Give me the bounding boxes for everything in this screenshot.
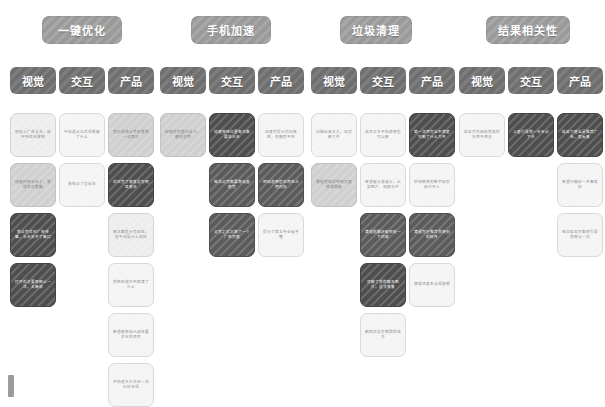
sticky-note-text: 清理前最好能预览一下内容 bbox=[364, 230, 402, 240]
sticky-note-text: 加速按钮位置每次都要找半天 bbox=[213, 130, 251, 140]
sticky-note-text: 第一次用完全不清楚它删了什么文件 bbox=[413, 130, 451, 140]
column-pill-5[interactable]: 交互 bbox=[209, 67, 255, 94]
sticky-note-text: 结果页内容和我搜的东西不相关 bbox=[463, 130, 501, 140]
column-pill-label: 产品 bbox=[421, 73, 444, 89]
sticky-note[interactable]: 希望能分类展示，比如图片、视频分开 bbox=[360, 163, 406, 207]
column-pill-8[interactable]: 交互 bbox=[360, 67, 406, 94]
column-pill-12[interactable]: 产品 bbox=[557, 67, 603, 94]
group-header-1[interactable]: 一键优化 bbox=[42, 16, 122, 44]
sticky-note-text: 希望只做好一件事就好 bbox=[561, 180, 599, 190]
sticky-note-text: 加速完提示内存释放，但感受不到 bbox=[262, 130, 300, 140]
sticky-note[interactable]: 加速按钮位置每次都要找半天 bbox=[209, 113, 255, 157]
sticky-note[interactable]: 加速完提示内存释放，但感受不到 bbox=[258, 113, 304, 157]
column-pill-label: 产品 bbox=[270, 73, 293, 89]
sticky-note-text: 提示文案太专业看不懂 bbox=[262, 230, 300, 240]
sticky-note[interactable]: 误删了我的聊天图片，没法恢复 bbox=[360, 263, 406, 307]
sticky-note[interactable]: 加速后页面还是卡，感觉没用 bbox=[160, 113, 206, 157]
vertical-scroll-indicator[interactable] bbox=[8, 375, 14, 397]
sticky-note-text: 不知道点击后系统做了什么 bbox=[63, 130, 101, 140]
column-pill-6[interactable]: 产品 bbox=[258, 67, 304, 94]
sticky-note[interactable]: 动画时间太长了，等得有点焦躁 bbox=[10, 163, 56, 207]
sticky-note[interactable]: 优化完了速度没有明显变化 bbox=[108, 163, 154, 207]
sticky-note-text: 清理进度条走得很慢 bbox=[414, 282, 450, 287]
sticky-note[interactable]: 不知道点击后系统做了什么 bbox=[59, 113, 105, 157]
sticky-note[interactable]: 每次都提示有风险，但不说是什么风险 bbox=[108, 213, 154, 257]
sticky-note-text: 清理完成后空间又很快满回来 bbox=[315, 180, 353, 190]
group-header-label: 垃圾清理 bbox=[352, 22, 400, 38]
sticky-note-text: 优化完了速度没有明显变化 bbox=[112, 180, 150, 190]
sticky-note-text: 不知道多久优化一次比较合适 bbox=[112, 380, 150, 390]
sticky-note[interactable]: 点完之后又跳了一个广告页面 bbox=[209, 213, 255, 257]
sticky-note[interactable]: 希望能够自己选择要优化的项目 bbox=[108, 313, 154, 357]
column-pill-label: 产品 bbox=[120, 73, 143, 89]
sticky-note[interactable]: 想知道哪些应用在占用内存 bbox=[258, 163, 304, 207]
sticky-note[interactable]: 希望只做好一件事就好 bbox=[557, 163, 603, 207]
sticky-note-text: 每次结果页都想引导我再点一次 bbox=[561, 230, 599, 240]
column-pill-9[interactable]: 产品 bbox=[409, 67, 455, 94]
column-pill-label: 交互 bbox=[221, 73, 244, 89]
sticky-note-text: 空间释放的数字和实际对不上 bbox=[413, 180, 451, 190]
column-pill-11[interactable]: 交互 bbox=[508, 67, 554, 94]
sticky-note[interactable]: 空间释放的数字和实际对不上 bbox=[409, 163, 455, 207]
sticky-note-text: 希望能够自己选择要优化的项目 bbox=[112, 330, 150, 340]
column-pill-1[interactable]: 视觉 bbox=[10, 67, 56, 94]
sticky-note[interactable]: 清理完成后空间又很快满回来 bbox=[311, 163, 357, 207]
sticky-note-text: 上面引导我一步步点下去 bbox=[512, 130, 550, 140]
sticky-note-text: 我点完优化广告弹窗，半天关不了窗口 bbox=[14, 230, 52, 240]
sticky-note[interactable]: 清理前最好能预览一下内容 bbox=[360, 213, 406, 257]
column-pill-label: 交互 bbox=[520, 73, 543, 89]
sticky-note-text: 按钮点了没反应 bbox=[68, 182, 96, 187]
sticky-note[interactable]: 结果下面全是推荐广告，很反感 bbox=[557, 113, 603, 157]
sticky-note[interactable]: 扫描出来太大，怕误删文件 bbox=[311, 113, 357, 157]
sticky-note[interactable]: 提示文案太专业看不懂 bbox=[258, 213, 304, 257]
sticky-note[interactable]: 清理进度条走得很慢 bbox=[409, 263, 455, 307]
sticky-note[interactable]: 不知道多久优化一次比较合适 bbox=[108, 363, 154, 407]
column-pill-label: 视觉 bbox=[172, 73, 195, 89]
column-pill-7[interactable]: 视觉 bbox=[311, 67, 357, 94]
sticky-note-text: 结果下面全是推荐广告，很反感 bbox=[561, 130, 599, 140]
sticky-note-text: 误删了我的聊天图片，没法恢复 bbox=[364, 280, 402, 290]
column-pill-label: 视觉 bbox=[323, 73, 346, 89]
sticky-note-text: 我只是想让手机变快一点而已 bbox=[112, 130, 150, 140]
sticky-note-text: 打开后还要再确认一次，太麻烦 bbox=[14, 280, 52, 290]
sticky-note-text: 清理完还推荐我装别的软件 bbox=[413, 230, 451, 240]
sticky-note-text: 每次点完都要等动画跑完 bbox=[213, 180, 251, 190]
sticky-note-text: 希望能分类展示，比如图片、视频分开 bbox=[364, 180, 402, 190]
sticky-note-text: 想知道哪些应用在占用内存 bbox=[262, 180, 300, 190]
group-header-2[interactable]: 手机加速 bbox=[191, 16, 271, 44]
sticky-note[interactable]: 选项太多不知道哪些可以删 bbox=[360, 113, 406, 157]
sticky-note[interactable]: 按钮点了没反应 bbox=[59, 163, 105, 207]
sticky-note[interactable]: 结果页内容和我搜的东西不相关 bbox=[459, 113, 505, 157]
sticky-note[interactable]: 我点完优化广告弹窗，半天关不了窗口 bbox=[10, 213, 56, 257]
sticky-note[interactable]: 我想知道它到底清了什么 bbox=[108, 263, 154, 307]
group-header-4[interactable]: 结果相关性 bbox=[486, 16, 570, 44]
column-pill-label: 产品 bbox=[569, 73, 592, 89]
sticky-note-text: 加速后页面还是卡，感觉没用 bbox=[164, 130, 202, 140]
group-header-label: 结果相关性 bbox=[498, 22, 558, 38]
sticky-note[interactable]: 每次点完都要等动画跑完 bbox=[209, 163, 255, 207]
group-header-3[interactable]: 垃圾清理 bbox=[340, 16, 412, 44]
sticky-note-text: 动画时间太长了，等得有点焦躁 bbox=[14, 180, 52, 190]
sticky-note[interactable]: 删除后没有撤回的地方 bbox=[360, 313, 406, 357]
column-pill-2[interactable]: 交互 bbox=[59, 67, 105, 94]
sticky-note[interactable]: 第一次用完全不清楚它删了什么文件 bbox=[409, 113, 455, 157]
sticky-note-text: 扫描出来太大，怕误删文件 bbox=[315, 130, 353, 140]
sticky-note[interactable]: 视觉上广告太多，找不到优化按钮 bbox=[10, 113, 56, 157]
sticky-note-text: 视觉上广告太多，找不到优化按钮 bbox=[14, 130, 52, 140]
sticky-note-text: 我想知道它到底清了什么 bbox=[112, 280, 150, 290]
sticky-note[interactable]: 清理完还推荐我装别的软件 bbox=[409, 213, 455, 257]
sticky-note-text: 选项太多不知道哪些可以删 bbox=[364, 130, 402, 140]
column-pill-10[interactable]: 视觉 bbox=[459, 67, 505, 94]
column-pill-4[interactable]: 视觉 bbox=[160, 67, 206, 94]
column-pill-label: 视觉 bbox=[22, 73, 45, 89]
group-header-label: 手机加速 bbox=[207, 22, 255, 38]
column-pill-3[interactable]: 产品 bbox=[108, 67, 154, 94]
column-pill-label: 交互 bbox=[372, 73, 395, 89]
sticky-note[interactable]: 每次结果页都想引导我再点一次 bbox=[557, 213, 603, 257]
sticky-note[interactable]: 我只是想让手机变快一点而已 bbox=[108, 113, 154, 157]
sticky-note[interactable]: 上面引导我一步步点下去 bbox=[508, 113, 554, 157]
group-header-label: 一键优化 bbox=[58, 22, 106, 38]
sticky-note[interactable]: 打开后还要再确认一次，太麻烦 bbox=[10, 263, 56, 307]
column-pill-label: 视觉 bbox=[471, 73, 494, 89]
